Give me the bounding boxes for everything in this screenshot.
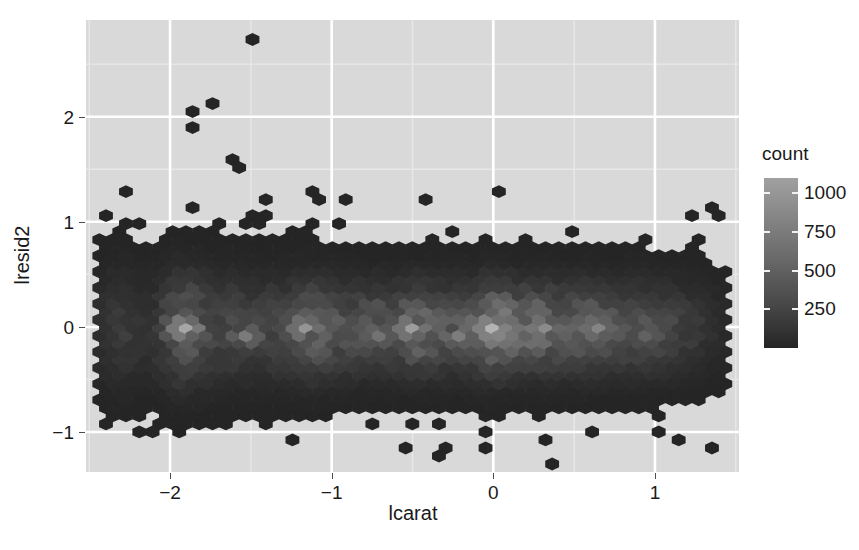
hexbin-cell [445,225,459,238]
hexbin-cell [339,193,353,206]
x-tick-label: 0 [488,483,499,502]
y-tick-mark [79,327,85,328]
legend-colorbar [764,178,798,348]
hexbin-cell [365,418,379,431]
hexbin-cell [132,217,146,230]
x-axis-title: lcarat [389,502,438,525]
hexbin-cell [132,426,146,439]
hexbin-cell [259,193,273,206]
hexbin-cell [186,201,200,214]
hexbin-cell [705,442,719,455]
legend-tick-mark [792,308,798,310]
legend-key-label: 1000 [804,182,846,204]
hexbin-cell [479,442,493,455]
plot-panel-svg [86,20,739,472]
hexbin-plot-figure: −2−101 −1012 lcarat lresid2 count 250500… [0,0,859,550]
legend-tick-mark [764,192,770,194]
x-tick-mark [655,473,656,479]
hexbin-cell [399,442,413,455]
x-tick-mark [332,473,333,479]
hexbin-cell [479,426,493,439]
hexbin-cell [539,434,553,447]
hexbin-cell [332,217,346,230]
hexbin-cell [119,185,133,198]
legend-key-label: 250 [804,298,836,320]
y-tick-mark [79,222,85,223]
hexbin-cell [565,225,579,238]
hexbin-cell [685,209,699,222]
hexbin-cell [585,426,599,439]
hexbin-cell [672,434,686,447]
legend-title: count [762,143,808,165]
legend-tick-mark [764,308,770,310]
legend-tick-mark [764,270,770,272]
x-tick-label: −1 [321,483,343,502]
legend-tick-mark [764,231,770,233]
legend-tick-mark [792,270,798,272]
hexbin-cell [432,418,446,431]
legend-colorbar-wrap [764,178,798,348]
legend: count 2505007501000 [762,143,859,358]
y-tick-mark [79,117,85,118]
hexbin-cell [545,458,559,471]
x-tick-label: −2 [159,483,181,502]
hexbin-cell [186,121,200,134]
hexbin-cell [206,97,220,110]
hexbin-cell [405,418,419,431]
legend-tick-mark [792,192,798,194]
legend-tick-mark [792,231,798,233]
y-axis-title: lresid2 [11,226,34,285]
plot-panel [86,20,739,472]
hexbin-cell [246,33,260,46]
x-tick-label: 1 [650,483,661,502]
y-tick-label: 2 [63,107,74,126]
y-tick-label: 1 [63,212,74,231]
y-tick-mark [79,432,85,433]
x-tick-mark [170,473,171,479]
legend-key-label: 500 [804,260,836,282]
x-tick-mark [493,473,494,479]
y-tick-label: −1 [52,423,74,442]
legend-key-label: 750 [804,221,836,243]
y-tick-label: 0 [63,317,74,336]
hexbin-cell [99,209,113,222]
hexbin-cell [419,193,433,206]
hexbin-cell [286,434,300,447]
